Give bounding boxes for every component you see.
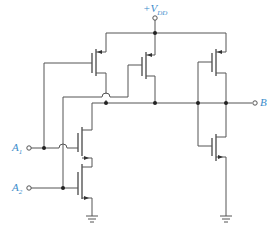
input-a1-label: A1 — [12, 142, 22, 156]
nmos1-arrow-icon — [84, 156, 89, 160]
pmos-transistor-a2 — [63, 33, 155, 188]
output-b-label: B — [260, 97, 267, 108]
circuit-schematic — [0, 0, 270, 235]
pmos-transistor-a1 — [44, 33, 110, 103]
input-a2-label-sub: 2 — [19, 188, 23, 196]
input-a1-label-sub: 1 — [19, 148, 23, 156]
input-a2-label: A2 — [12, 182, 22, 196]
inverter-pmos — [198, 33, 226, 146]
inverter-nmos-arrow-icon — [218, 155, 223, 159]
input-a1-wire — [31, 63, 44, 148]
pmos2-arrow-icon — [147, 53, 152, 57]
output-b-label-text: B — [260, 96, 267, 108]
input-a1-label-main: A — [12, 141, 19, 153]
vdd-label-sub: DD — [157, 9, 167, 17]
input-a2-terminal[interactable] — [27, 186, 31, 190]
vdd-terminal — [153, 16, 157, 33]
inverter-nmos — [198, 134, 226, 216]
nmos2-arrow-icon — [84, 196, 89, 200]
input-a2-label-main: A — [12, 181, 19, 193]
vdd-label-main: +V — [143, 2, 157, 14]
inverter-pmos-arrow-icon — [217, 50, 222, 54]
ground-icon — [220, 216, 232, 222]
input-a1-terminal[interactable] — [27, 146, 31, 150]
nmos-transistor-a1 — [44, 127, 92, 167]
nmos-transistor-a2 — [63, 164, 92, 216]
vdd-label: +VDD — [143, 3, 167, 17]
junction-dots — [42, 31, 228, 190]
pmos1-arrow-icon — [97, 50, 102, 54]
ground-icon — [86, 216, 98, 222]
output-terminal — [253, 101, 257, 105]
